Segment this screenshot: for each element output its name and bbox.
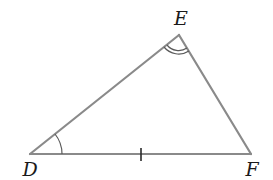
triangle-sides xyxy=(30,35,251,154)
side-ef xyxy=(179,35,251,154)
vertex-label-e: E xyxy=(173,7,188,29)
vertex-label-f: F xyxy=(244,158,259,180)
angle-arc-e-inner xyxy=(167,45,187,51)
side-de xyxy=(30,35,179,154)
triangle-def-diagram: E D F xyxy=(0,0,273,180)
vertex-label-d: D xyxy=(21,158,37,180)
angle-arc-d xyxy=(55,134,62,154)
